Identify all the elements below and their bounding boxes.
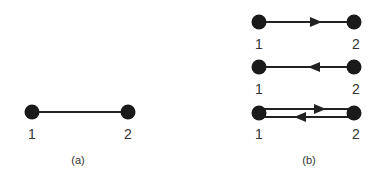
node-label-1: 1 (255, 37, 263, 51)
arrow-right-icon (310, 17, 322, 27)
node-label-2: 2 (352, 37, 360, 51)
panel-b-edge-pair (252, 104, 362, 122)
node-1 (252, 60, 267, 75)
node-label-2: 2 (124, 127, 132, 141)
panel-b-edge-1-to-2 (252, 15, 362, 30)
node-label-2: 2 (352, 127, 360, 141)
panel-a-graph (25, 105, 136, 120)
node-1 (25, 105, 40, 120)
diagram-canvas (0, 0, 379, 181)
node-1 (252, 106, 267, 121)
node-label-1: 1 (28, 127, 36, 141)
arrow-left-icon (308, 62, 320, 72)
node-2 (347, 60, 362, 75)
panel-b-edge-2-to-1 (252, 60, 362, 75)
caption-a: (a) (71, 155, 84, 166)
node-label-1: 1 (255, 127, 263, 141)
arrow-left-icon (294, 112, 306, 122)
arrow-right-icon (314, 104, 326, 114)
node-2 (121, 105, 136, 120)
node-label-2: 2 (352, 82, 360, 96)
node-1 (252, 15, 267, 30)
node-2 (347, 15, 362, 30)
caption-b: (b) (302, 155, 315, 166)
node-label-1: 1 (255, 82, 263, 96)
node-2 (347, 106, 362, 121)
